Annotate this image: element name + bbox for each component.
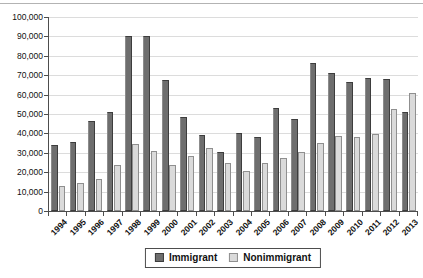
x-axis-tick: [140, 212, 141, 216]
bar-immigrant-2000: [162, 80, 169, 211]
y-axis-tick: [44, 133, 48, 134]
x-axis-tick: [214, 212, 215, 216]
x-axis-label-1998: 1998: [123, 217, 143, 237]
gridline-80,000: [49, 56, 418, 57]
x-axis-tick: [196, 212, 197, 216]
gridline-60,000: [49, 95, 418, 96]
bar-immigrant-2002: [199, 135, 206, 211]
bar-immigrant-2007: [291, 119, 298, 211]
bar-immigrant-2005: [254, 137, 261, 211]
legend-item-nonimmigrant: Nonimmigrant: [229, 252, 311, 263]
x-axis-tick: [380, 212, 381, 216]
x-axis-label-2013: 2013: [400, 217, 420, 237]
bar-immigrant-2011: [365, 78, 372, 211]
x-axis-label-2008: 2008: [307, 217, 327, 237]
x-axis-label-2004: 2004: [234, 217, 254, 237]
x-axis-tick: [362, 212, 363, 216]
x-axis-tick: [269, 212, 270, 216]
legend-swatch-nonimmigrant: [229, 253, 238, 262]
legend-item-immigrant: Immigrant: [155, 252, 217, 263]
bar-nonimmigrant-2012: [391, 109, 398, 211]
chart-page: 010,00020,00030,00040,00050,00060,00070,…: [0, 0, 423, 278]
x-axis-label-2009: 2009: [326, 217, 346, 237]
legend: Immigrant Nonimmigrant: [145, 248, 321, 268]
gridline-30,000: [49, 153, 418, 154]
legend-label-nonimmigrant: Nonimmigrant: [243, 252, 311, 263]
legend-swatch-immigrant: [155, 253, 164, 262]
bar-immigrant-2013: [402, 112, 409, 211]
x-axis-tick: [103, 212, 104, 216]
y-axis-tick: [44, 95, 48, 96]
x-axis-tick: [306, 212, 307, 216]
x-axis-label-2011: 2011: [363, 217, 383, 237]
y-axis-tick: [44, 172, 48, 173]
bar-nonimmigrant-2003: [225, 163, 232, 211]
bar-nonimmigrant-2011: [372, 134, 379, 211]
x-axis-label-2006: 2006: [270, 217, 290, 237]
bar-chart: 010,00020,00030,00040,00050,00060,00070,…: [0, 0, 423, 278]
bar-immigrant-1995: [70, 142, 77, 211]
bar-nonimmigrant-2000: [169, 165, 176, 211]
x-axis-tick: [177, 212, 178, 216]
y-axis-label-10,000: 10,000: [0, 187, 43, 196]
y-axis-label-20,000: 20,000: [0, 168, 43, 177]
y-axis-label-60,000: 60,000: [0, 90, 43, 99]
bar-immigrant-1996: [88, 121, 95, 211]
x-axis-label-2003: 2003: [215, 217, 235, 237]
x-axis-tick: [343, 212, 344, 216]
x-axis-label-1997: 1997: [104, 217, 124, 237]
bar-nonimmigrant-1998: [132, 144, 139, 211]
y-axis-label-90,000: 90,000: [0, 32, 43, 41]
bar-immigrant-1998: [125, 36, 132, 211]
x-axis-label-1995: 1995: [67, 217, 87, 237]
bar-nonimmigrant-1994: [59, 186, 66, 211]
y-axis-tick: [44, 75, 48, 76]
y-axis-label-70,000: 70,000: [0, 71, 43, 80]
gridline-10,000: [49, 192, 418, 193]
y-axis-label-100,000: 100,000: [0, 13, 43, 22]
legend-label-immigrant: Immigrant: [169, 252, 217, 263]
bar-immigrant-2006: [273, 108, 280, 211]
x-axis-tick: [417, 212, 418, 216]
x-axis-label-2005: 2005: [252, 217, 272, 237]
bar-immigrant-2001: [180, 117, 187, 211]
bar-nonimmigrant-1997: [114, 165, 121, 211]
bar-immigrant-2004: [236, 133, 243, 211]
x-axis-tick: [233, 212, 234, 216]
x-axis-tick: [399, 212, 400, 216]
gridline-20,000: [49, 172, 418, 173]
bar-nonimmigrant-2008: [317, 143, 324, 211]
x-axis-tick: [122, 212, 123, 216]
bar-nonimmigrant-2010: [354, 137, 361, 211]
bar-nonimmigrant-1999: [151, 151, 158, 211]
plot-area: [48, 17, 418, 212]
x-axis-label-2007: 2007: [289, 217, 309, 237]
bar-immigrant-1997: [107, 112, 114, 211]
x-axis-label-1994: 1994: [49, 217, 69, 237]
bar-nonimmigrant-2001: [188, 156, 195, 211]
bar-immigrant-2008: [310, 63, 317, 211]
y-axis-tick: [44, 114, 48, 115]
x-axis-label-1996: 1996: [86, 217, 106, 237]
x-axis-label-2002: 2002: [197, 217, 217, 237]
bar-nonimmigrant-2006: [280, 158, 287, 211]
y-axis-label-40,000: 40,000: [0, 129, 43, 138]
gridline-40,000: [49, 133, 418, 134]
gridline-70,000: [49, 75, 418, 76]
x-axis-tick: [85, 212, 86, 216]
x-axis-label-2000: 2000: [160, 217, 180, 237]
bar-immigrant-1994: [51, 145, 58, 211]
bar-nonimmigrant-2013: [409, 93, 416, 211]
y-axis-tick: [44, 36, 48, 37]
gridline-50,000: [49, 114, 418, 115]
y-axis-tick: [44, 17, 48, 18]
x-axis-tick: [66, 212, 67, 216]
x-axis-label-2012: 2012: [381, 217, 401, 237]
bar-nonimmigrant-2004: [243, 171, 250, 211]
y-axis-label-0: 0: [0, 207, 43, 216]
gridline-90,000: [49, 36, 418, 37]
y-axis-label-50,000: 50,000: [0, 110, 43, 119]
bar-immigrant-2009: [328, 73, 335, 211]
y-axis-label-80,000: 80,000: [0, 51, 43, 60]
x-axis-tick: [48, 212, 49, 216]
